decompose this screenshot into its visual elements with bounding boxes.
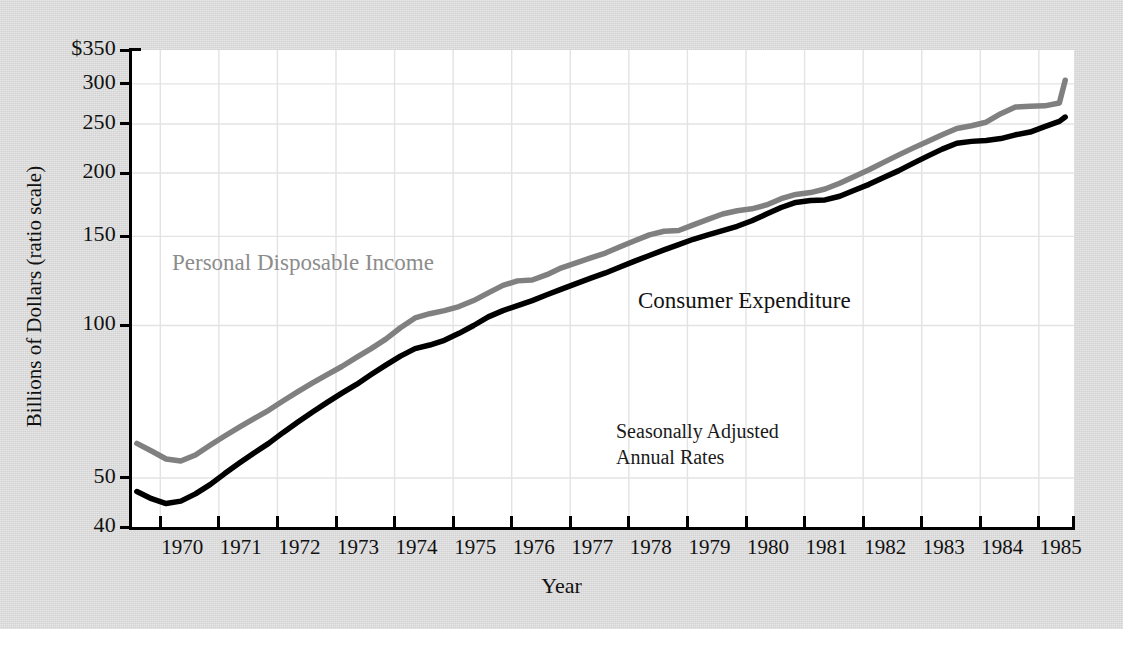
y-tick-label: 300: [82, 69, 116, 95]
y-tick-label: 200: [82, 158, 116, 184]
x-tick-mark: [803, 516, 806, 530]
y-tick-mark: [120, 476, 132, 479]
y-tick-mark: [120, 526, 132, 529]
x-axis-line: [129, 527, 1075, 530]
annotation-line-1: Seasonally Adjusted: [616, 419, 779, 445]
y-tick-mark: [120, 172, 132, 175]
plot-area: [131, 50, 1074, 527]
y-tick-label: 250: [82, 109, 116, 135]
y-tick-label: 100: [82, 310, 116, 336]
x-tick-mark: [159, 516, 162, 530]
x-tick-mark: [393, 516, 396, 530]
y-tick-mark: [120, 82, 132, 85]
x-tick-mark: [452, 516, 455, 530]
x-axis-right-cap: [1072, 516, 1075, 530]
x-tick-label: 1983: [923, 535, 965, 560]
x-axis-title: Year: [0, 573, 1123, 599]
y-tick-label: 50: [94, 463, 116, 489]
y-tick-label: 150: [82, 221, 116, 247]
x-tick-label: 1973: [337, 535, 379, 560]
x-tick-label: 1974: [396, 535, 438, 560]
x-tick-label: 1984: [981, 535, 1023, 560]
x-tick-label: 1978: [630, 535, 672, 560]
x-tick-mark: [745, 516, 748, 530]
y-tick-mark: [120, 324, 132, 327]
x-tick-label: 1982: [864, 535, 906, 560]
series-line-consumer-expenditure: [137, 117, 1065, 503]
series-label-consumer-expenditure: Consumer Expenditure: [638, 288, 851, 314]
x-tick-label: 1976: [513, 535, 555, 560]
x-tick-label: 1979: [688, 535, 730, 560]
gridlines: [131, 50, 1074, 527]
x-tick-mark: [510, 516, 513, 530]
x-tick-mark: [862, 516, 865, 530]
x-tick-label: 1981: [806, 535, 848, 560]
y-axis-line: [129, 48, 132, 529]
x-tick-label: 1972: [278, 535, 320, 560]
x-tick-label: 1977: [571, 535, 613, 560]
data-series-group: [137, 80, 1065, 503]
x-tick-mark: [686, 516, 689, 530]
x-tick-label: 1980: [747, 535, 789, 560]
chart-figure: $3503002502001501005040 1970197119721973…: [0, 0, 1123, 648]
x-tick-mark: [627, 516, 630, 530]
x-tick-label: 1985: [1040, 535, 1082, 560]
x-tick-label: 1970: [161, 535, 203, 560]
x-tick-mark: [217, 516, 220, 530]
x-tick-mark: [335, 516, 338, 530]
y-tick-mark: [120, 235, 132, 238]
y-tick-label: $350: [71, 35, 116, 61]
chart-annotation: Seasonally Adjusted Annual Rates: [616, 419, 779, 470]
y-axis-title: Billions of Dollars (ratio scale): [22, 97, 47, 497]
x-tick-mark: [979, 516, 982, 530]
y-tick-label: 40: [94, 512, 116, 538]
chart-canvas: [131, 50, 1074, 527]
series-label-personal-disposable-income: Personal Disposable Income: [172, 250, 434, 276]
x-tick-mark: [276, 516, 279, 530]
x-tick-mark: [569, 516, 572, 530]
x-tick-mark: [1037, 516, 1040, 530]
annotation-line-2: Annual Rates: [616, 445, 779, 471]
x-tick-mark: [920, 516, 923, 530]
y-tick-mark: [120, 122, 132, 125]
x-tick-label: 1975: [454, 535, 496, 560]
y-tick-mark: [120, 49, 132, 52]
x-tick-label: 1971: [220, 535, 262, 560]
